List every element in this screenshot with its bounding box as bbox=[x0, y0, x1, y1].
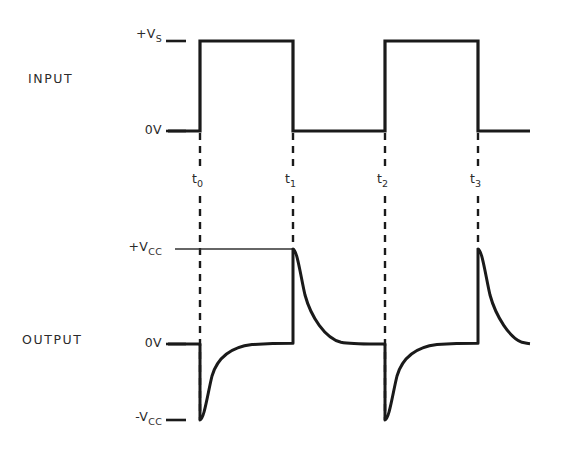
output-pos-rail-label-base: +V bbox=[129, 239, 149, 254]
time-marker-label-t0: t0 bbox=[192, 171, 203, 189]
output-waveform-trace bbox=[168, 249, 530, 420]
input-high-label: +VS bbox=[104, 26, 162, 44]
time-marker-label-t3: t3 bbox=[470, 171, 481, 189]
input-waveform-trace bbox=[168, 41, 530, 131]
output-neg-rail-label: -VCC bbox=[98, 409, 162, 427]
time-marker-label-t1: t1 bbox=[285, 171, 296, 189]
time-marker-label-t2: t2 bbox=[377, 171, 388, 189]
input-zero-label: 0V bbox=[104, 122, 162, 137]
input-high-label-sub: S bbox=[156, 33, 162, 44]
output-neg-rail-label-sub: CC bbox=[148, 416, 162, 427]
time-marker-label-t1-sub: 1 bbox=[290, 178, 296, 189]
output-pos-rail-label: +VCC bbox=[98, 239, 162, 257]
time-marker-label-t0-sub: 0 bbox=[197, 178, 203, 189]
input-high-label-base: +V bbox=[136, 26, 156, 41]
time-marker-label-t2-sub: 2 bbox=[382, 178, 388, 189]
output-pos-rail-label-sub: CC bbox=[148, 246, 162, 257]
output-row-label: OUTPUT bbox=[22, 332, 83, 347]
input-row-label: INPUT bbox=[28, 71, 73, 86]
time-marker-label-t3-sub: 3 bbox=[475, 178, 481, 189]
waveform-diagram bbox=[0, 0, 564, 466]
output-neg-rail-label-base: -V bbox=[135, 409, 148, 424]
output-zero-label: 0V bbox=[104, 335, 162, 350]
